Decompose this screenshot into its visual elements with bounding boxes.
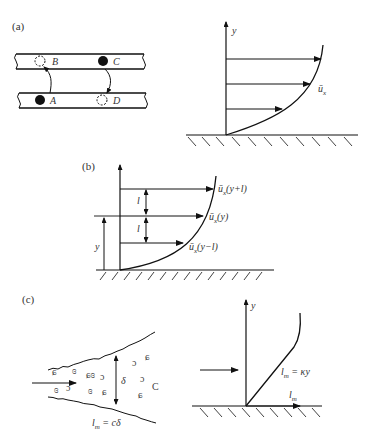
lm-axis-label: lm bbox=[289, 389, 297, 403]
point-c-filled bbox=[98, 56, 108, 66]
label-d: D bbox=[112, 95, 121, 106]
free-jet-diagram: δ ɕɞɕɞ ɔɞɔ ɞɕɔ ɕɔC ɕ lm = cδ bbox=[32, 332, 159, 431]
velocity-profile-a: y ūx bbox=[186, 22, 358, 146]
svg-text:ɕ: ɕ bbox=[102, 386, 107, 397]
point-d-dashed bbox=[97, 95, 107, 105]
ux-label: ūx bbox=[318, 83, 327, 97]
label-b: B bbox=[52, 56, 58, 67]
svg-text:ɞ: ɞ bbox=[54, 384, 59, 395]
svg-text:ɞ: ɞ bbox=[72, 365, 77, 376]
y-axis-label: y bbox=[231, 25, 237, 36]
svg-text:ɕ: ɕ bbox=[145, 351, 150, 362]
mixing-length-diagram: (a) B C A D y ūx bbox=[0, 0, 372, 438]
mixing-length-curve bbox=[246, 313, 300, 406]
label-ux-y-minus-l: ūx(y−l) bbox=[189, 241, 218, 255]
wall-mixing-length-diagram: y lm = κy lm bbox=[192, 300, 322, 417]
y-height-label: y bbox=[94, 241, 100, 252]
panel-a-label: (a) bbox=[12, 20, 25, 33]
point-b-dashed bbox=[35, 56, 45, 66]
panel-b-label: (b) bbox=[82, 160, 95, 173]
label-a: A bbox=[49, 95, 57, 106]
svg-text:ɕɞ: ɕɞ bbox=[86, 369, 95, 380]
svg-text:ɕ: ɕ bbox=[52, 366, 57, 377]
arrow-c-to-d bbox=[105, 69, 111, 93]
svg-text:ɕ: ɕ bbox=[138, 389, 143, 400]
panel-c-label: (c) bbox=[22, 293, 35, 306]
svg-text:ɔ: ɔ bbox=[66, 382, 71, 393]
velocity-profile-b: l l y ūx(y+l) ūx(y) ūx(y−l) bbox=[94, 165, 274, 280]
svg-text:ɔ: ɔ bbox=[140, 373, 145, 384]
arrow-a-to-b bbox=[44, 67, 51, 93]
mixing-length-formula: lm = κy bbox=[281, 366, 310, 380]
y-axis-label-c: y bbox=[250, 300, 256, 311]
eddy-exchange-diagram: B C A D bbox=[15, 54, 148, 108]
point-a-filled bbox=[35, 95, 45, 105]
l-upper: l bbox=[137, 195, 140, 206]
svg-text:C: C bbox=[152, 381, 159, 392]
jet-formula: lm = cδ bbox=[92, 417, 121, 431]
label-ux-y-plus-l: ūx(y+l) bbox=[218, 183, 247, 197]
label-c: C bbox=[113, 56, 120, 67]
l-lower: l bbox=[137, 223, 140, 234]
svg-text:ɔ: ɔ bbox=[132, 357, 137, 368]
delta-label: δ bbox=[121, 375, 126, 386]
svg-text:ɔ: ɔ bbox=[100, 371, 105, 382]
label-ux-y: ūx(y) bbox=[209, 211, 229, 225]
svg-text:ɞ: ɞ bbox=[88, 385, 93, 396]
